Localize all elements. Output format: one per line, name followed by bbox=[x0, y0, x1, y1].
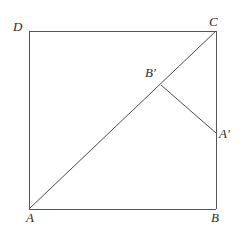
vertex-label-B: B bbox=[211, 211, 219, 224]
geometry-figure: D C A B B′ A′ bbox=[0, 0, 247, 242]
fold-segment-Bp-Ap bbox=[161, 85, 216, 133]
figure-canvas bbox=[0, 0, 247, 242]
diagonal-AC bbox=[29, 31, 216, 209]
vertex-label-D: D bbox=[13, 20, 22, 33]
vertex-label-A: A bbox=[26, 211, 34, 224]
vertex-label-C: C bbox=[209, 15, 218, 28]
vertex-label-A-prime: A′ bbox=[219, 127, 230, 140]
vertex-label-B-prime: B′ bbox=[145, 66, 156, 79]
